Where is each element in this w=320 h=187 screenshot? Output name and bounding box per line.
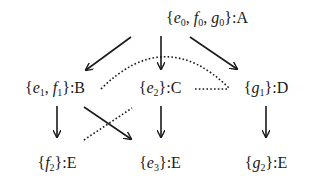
edge-a-b — [86, 37, 131, 70]
edge-b-e2 — [84, 107, 131, 139]
node-a: {e0, f0, g0}:A — [166, 9, 248, 27]
node-c: {e2}:C — [139, 79, 182, 97]
node-e2: {e3}:E — [139, 154, 181, 172]
node-b: {e1, f1}:B — [25, 79, 85, 97]
node-e3: {g2}:E — [245, 154, 288, 172]
node-e1: {f2}:E — [37, 154, 76, 172]
node-d: {g1}:D — [244, 79, 288, 97]
